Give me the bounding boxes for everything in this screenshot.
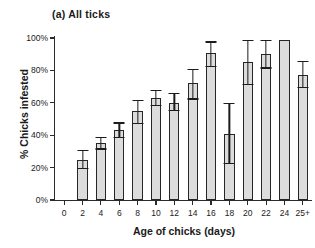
error-bar-stem <box>302 61 303 89</box>
x-tick-mark <box>64 200 65 205</box>
error-bar-cap-bottom <box>114 137 125 138</box>
x-tick-mark <box>137 200 138 205</box>
bar <box>96 143 106 200</box>
x-tick-label: 16 <box>206 208 215 218</box>
y-tick-mark <box>50 199 55 200</box>
error-bar-cap-bottom <box>297 87 308 88</box>
x-tick-label: 8 <box>135 208 140 218</box>
y-tick-label: 60% <box>31 98 48 108</box>
bar <box>298 75 308 200</box>
error-bar <box>151 90 161 106</box>
error-bar-stem <box>247 40 248 85</box>
panel-title: (a) All ticks <box>52 8 110 20</box>
error-bar <box>169 93 179 111</box>
error-bar-stem <box>192 69 193 100</box>
bar <box>151 98 161 200</box>
bar <box>206 53 216 200</box>
error-bar <box>114 122 124 138</box>
error-bar-stem <box>229 103 230 165</box>
x-tick-mark <box>100 200 101 205</box>
x-tick-label: 20 <box>243 208 252 218</box>
error-bar-cap-bottom <box>95 148 106 149</box>
x-tick-label: 22 <box>261 208 270 218</box>
y-tick-mark <box>50 167 55 168</box>
error-bar-cap-top <box>206 41 217 42</box>
bar <box>188 83 198 200</box>
error-bar <box>298 61 308 89</box>
error-bar-cap-top <box>132 100 143 101</box>
error-bar-cap-top <box>95 137 106 138</box>
error-bar-cap-top <box>169 93 180 94</box>
y-tick-mark <box>50 135 55 136</box>
x-tick-label: 14 <box>188 208 197 218</box>
x-tick-mark <box>155 200 156 205</box>
error-bar <box>188 69 198 100</box>
error-bar-cap-bottom <box>150 105 161 106</box>
x-tick-label: 24 <box>280 208 289 218</box>
error-bar-cap-top <box>224 103 235 104</box>
y-tick-mark <box>50 102 55 103</box>
x-tick-mark <box>210 200 211 205</box>
error-bar-cap-bottom <box>77 168 88 169</box>
error-bar <box>96 137 106 150</box>
bar <box>261 54 271 200</box>
x-tick-mark <box>229 200 230 205</box>
error-bar-cap-bottom <box>261 67 272 68</box>
error-bar <box>224 103 234 165</box>
error-bar-cap-bottom <box>132 123 143 124</box>
x-tick-label: 18 <box>225 208 234 218</box>
error-bar-cap-bottom <box>187 98 198 99</box>
error-bar-cap-bottom <box>224 163 235 164</box>
x-tick-mark <box>119 200 120 205</box>
error-bar-stem <box>265 40 266 69</box>
x-tick-mark <box>174 200 175 205</box>
chart-figure: (a) All ticks % Chicks infested 0%20%40%… <box>0 0 315 248</box>
x-tick-mark <box>82 200 83 205</box>
error-bar <box>243 40 253 85</box>
error-bar <box>261 40 271 69</box>
y-axis-label: % Chicks infested <box>18 44 30 184</box>
x-tick-mark <box>302 200 303 205</box>
y-axis-line <box>54 36 55 200</box>
error-bar-stem <box>137 100 138 124</box>
y-tick-label: 0% <box>36 195 48 205</box>
error-bar-stem <box>210 41 211 67</box>
bar <box>279 40 289 200</box>
error-bar <box>132 100 142 124</box>
error-bar-cap-bottom <box>206 66 217 67</box>
x-tick-label: 12 <box>170 208 179 218</box>
error-bar-cap-top <box>114 122 125 123</box>
y-tick-label: 40% <box>31 130 48 140</box>
error-bar-stem <box>155 90 156 106</box>
error-bar-stem <box>82 150 83 169</box>
bar <box>169 103 179 200</box>
x-tick-mark <box>266 200 267 205</box>
error-bar-cap-top <box>150 90 161 91</box>
x-tick-label: 0 <box>62 208 67 218</box>
error-bar-cap-bottom <box>169 110 180 111</box>
plot-area: 0%20%40%60%80%100% 024681012141618202224… <box>55 38 312 200</box>
x-tick-mark <box>247 200 248 205</box>
error-bar-cap-top <box>242 40 253 41</box>
error-bar-cap-top <box>77 150 88 151</box>
error-bar-cap-bottom <box>242 84 253 85</box>
x-tick-mark <box>192 200 193 205</box>
x-tick-label: 4 <box>99 208 104 218</box>
x-tick-label: 2 <box>80 208 85 218</box>
x-axis-label: Age of chicks (days) <box>55 225 313 237</box>
error-bar-stem <box>174 93 175 111</box>
y-tick-mark <box>50 37 55 38</box>
error-bar-cap-top <box>261 40 272 41</box>
y-tick-label: 100% <box>26 33 48 43</box>
x-tick-mark <box>284 200 285 205</box>
y-tick-label: 20% <box>31 163 48 173</box>
error-bar-cap-top <box>297 61 308 62</box>
y-tick-label: 80% <box>31 65 48 75</box>
x-tick-label: 25+ <box>296 208 310 218</box>
bar <box>132 111 142 200</box>
y-tick-mark <box>50 70 55 71</box>
x-axis-line <box>54 200 312 201</box>
error-bar-stem <box>119 122 120 138</box>
error-bar <box>77 150 87 169</box>
bar <box>114 130 124 200</box>
